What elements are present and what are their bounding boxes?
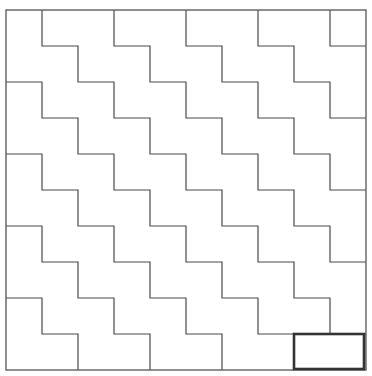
staircase-top-1: [42, 10, 366, 334]
staircase-top-4: [258, 10, 366, 118]
staircase-left-4: [6, 298, 78, 370]
highlighted-domino: [294, 334, 364, 369]
staircase-lines: [6, 10, 366, 370]
tiling-diagram: [0, 0, 372, 376]
staircase-top-5: [330, 10, 366, 46]
staircase-top-2: [114, 10, 366, 262]
staircase-top-3: [186, 10, 366, 190]
